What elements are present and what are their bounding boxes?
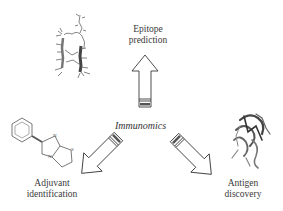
atom-n2: N [48,154,52,159]
epitope-prediction-label: Epitope prediction [122,24,174,46]
adjuvant-line2: identification [22,189,82,200]
arrow-down-left-icon [72,127,127,182]
immunomics-center-label: Immunomics [115,120,166,131]
epitope-line2: prediction [122,35,174,46]
epitope-line1: Epitope [122,24,174,35]
adjuvant-identification-label: Adjuvant identification [22,178,82,200]
atom-s: S [71,147,74,152]
antigen-line1: Antigen [218,178,268,189]
arrow-up-icon [132,55,158,107]
arrow-down-right-icon [165,128,220,183]
levamisole-structure-icon [12,118,72,167]
peptide-structure-icon [55,14,90,78]
antigen-discovery-label: Antigen discovery [218,178,268,200]
protein-structure-icon [232,114,270,168]
atom-n1: N [53,133,57,138]
adjuvant-line1: Adjuvant [22,178,82,189]
antigen-line2: discovery [218,189,268,200]
